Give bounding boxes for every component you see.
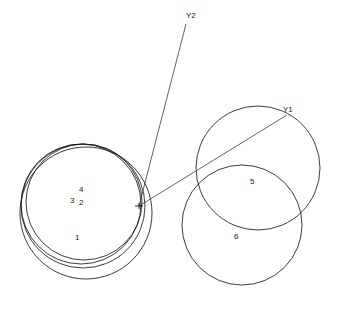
label-3: 3 <box>70 197 74 205</box>
label-1: 1 <box>75 234 79 242</box>
figure-background <box>0 0 337 321</box>
label-6: 6 <box>234 233 238 241</box>
geometry-figure: 123456Y1Y2 <box>0 0 337 321</box>
label-2: 2 <box>79 199 83 207</box>
label-5: 5 <box>250 178 254 186</box>
label-y2: Y2 <box>186 12 196 20</box>
label-y1: Y1 <box>283 106 293 114</box>
label-4: 4 <box>79 186 83 194</box>
figure-canvas <box>0 0 337 321</box>
